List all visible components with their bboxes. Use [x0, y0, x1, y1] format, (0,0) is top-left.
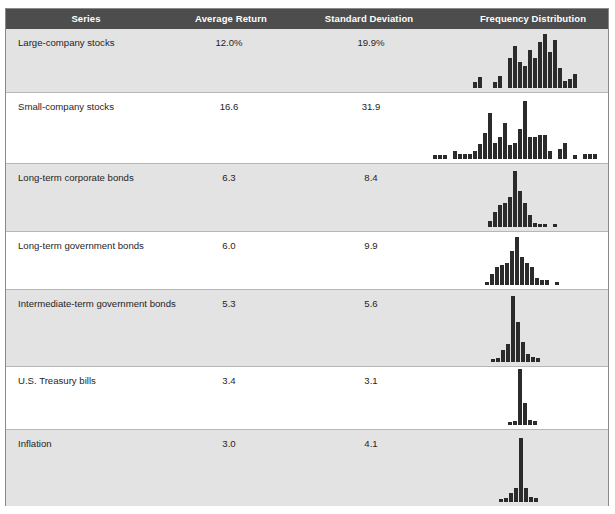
histogram-bar [453, 151, 457, 159]
histogram-bar [520, 257, 524, 285]
cell-standard-deviation: 3.1 [326, 373, 416, 388]
histogram-bar [488, 113, 492, 159]
cell-average-return: 6.3 [184, 170, 274, 185]
histogram-bar [498, 76, 502, 88]
histogram-bar [545, 280, 549, 285]
histogram-bar [458, 154, 462, 159]
histogram-bar [508, 58, 512, 88]
table-row[interactable]: U.S. Treasury bills3.43.1 [6, 367, 608, 430]
cell-average-return: 6.0 [184, 238, 274, 253]
histogram-bar [498, 205, 502, 227]
cell-average-return: 3.0 [184, 436, 274, 451]
histogram-bar [521, 342, 525, 362]
histogram-bar [478, 77, 482, 88]
histogram-bar [443, 155, 447, 159]
histogram-bar [505, 263, 509, 285]
cell-standard-deviation: 9.9 [326, 238, 416, 253]
histogram-bar [538, 135, 542, 159]
column-header-freq[interactable]: Frequency Distribution [443, 9, 615, 29]
histogram-bar [523, 403, 527, 425]
histogram-bar [524, 488, 528, 502]
histogram-bar [548, 52, 552, 88]
histogram-bar [515, 237, 519, 285]
histogram-bar [490, 274, 494, 285]
table-header-row: SeriesAverage ReturnStandard DeviationFr… [6, 9, 608, 29]
cell-average-return: 3.4 [184, 373, 274, 388]
histogram-bar [518, 369, 522, 425]
histogram-bar [573, 74, 577, 88]
histogram-bar [514, 488, 518, 502]
histogram-bar [583, 154, 587, 159]
histogram-bar [496, 358, 500, 362]
table-row[interactable]: Small-company stocks16.631.9 [6, 93, 608, 164]
histogram-bar [508, 145, 512, 159]
histogram-bar [463, 154, 467, 159]
cell-average-return: 16.6 [184, 99, 274, 114]
table-row[interactable]: Inflation3.04.1 [6, 430, 608, 506]
histogram-bar [531, 357, 535, 362]
table-row[interactable]: Long-term government bonds6.09.9 [6, 232, 608, 290]
frequency-histogram [488, 163, 564, 227]
histogram-bar [553, 40, 557, 88]
frequency-histogram [485, 231, 566, 285]
histogram-bar [503, 203, 507, 227]
histogram-bar [501, 350, 505, 362]
table-row[interactable]: Long-term corporate bonds6.38.4 [6, 164, 608, 232]
histogram-bar [533, 137, 537, 159]
histogram-bar [508, 197, 512, 227]
cell-standard-deviation: 19.9% [326, 35, 416, 50]
histogram-bar [536, 358, 540, 362]
frequency-histogram [499, 430, 545, 502]
cell-standard-deviation: 31.9 [326, 99, 416, 114]
histogram-bar [533, 58, 537, 88]
histogram-bar [483, 133, 487, 159]
histogram-bar [510, 251, 514, 285]
histogram-bar [540, 280, 544, 285]
histogram-bar [528, 50, 532, 88]
histogram-bar [538, 224, 542, 227]
histogram-bar [528, 215, 532, 227]
histogram-bar [513, 46, 517, 88]
histogram-bar [478, 144, 482, 159]
histogram-bar [493, 82, 497, 88]
frequency-histogram [433, 92, 604, 159]
histogram-bar [511, 296, 515, 362]
histogram-bar [558, 149, 562, 159]
returns-summary-table: SeriesAverage ReturnStandard DeviationFr… [5, 8, 609, 506]
histogram-bar [468, 154, 472, 159]
caption-fragment-text: · · ·· [215, 0, 230, 3]
histogram-bar [504, 498, 508, 502]
histogram-bar [543, 135, 547, 159]
table-row[interactable]: Intermediate-term government bonds5.35.6 [6, 290, 608, 367]
histogram-bar [558, 68, 562, 88]
histogram-bar [508, 422, 512, 425]
frequency-histogram [491, 289, 547, 362]
histogram-bar [573, 155, 577, 159]
histogram-bar [519, 438, 523, 502]
histogram-bar [503, 123, 507, 159]
histogram-bar [513, 143, 517, 159]
cell-average-return: 12.0% [184, 35, 274, 50]
histogram-bar [491, 359, 495, 362]
histogram-bar [526, 354, 530, 362]
column-header-sd[interactable]: Standard Deviation [279, 9, 459, 29]
table-row[interactable]: Large-company stocks12.0%19.9% [6, 29, 608, 93]
histogram-bar [553, 224, 557, 227]
histogram-bar [473, 82, 477, 88]
frequency-histogram [508, 366, 544, 425]
histogram-bar [529, 497, 533, 502]
histogram-bar [528, 420, 532, 425]
histogram-bar [518, 191, 522, 227]
histogram-bar [525, 263, 529, 285]
cell-average-return: 5.3 [184, 296, 274, 311]
histogram-bar [518, 129, 522, 159]
histogram-bar [528, 137, 532, 159]
histogram-bar [538, 42, 542, 88]
frequency-histogram [463, 28, 594, 88]
histogram-bar [593, 154, 597, 159]
histogram-bar [506, 344, 510, 362]
histogram-bar [563, 143, 567, 159]
histogram-bar [438, 155, 442, 159]
cell-standard-deviation: 5.6 [326, 296, 416, 311]
histogram-bar [516, 322, 520, 362]
